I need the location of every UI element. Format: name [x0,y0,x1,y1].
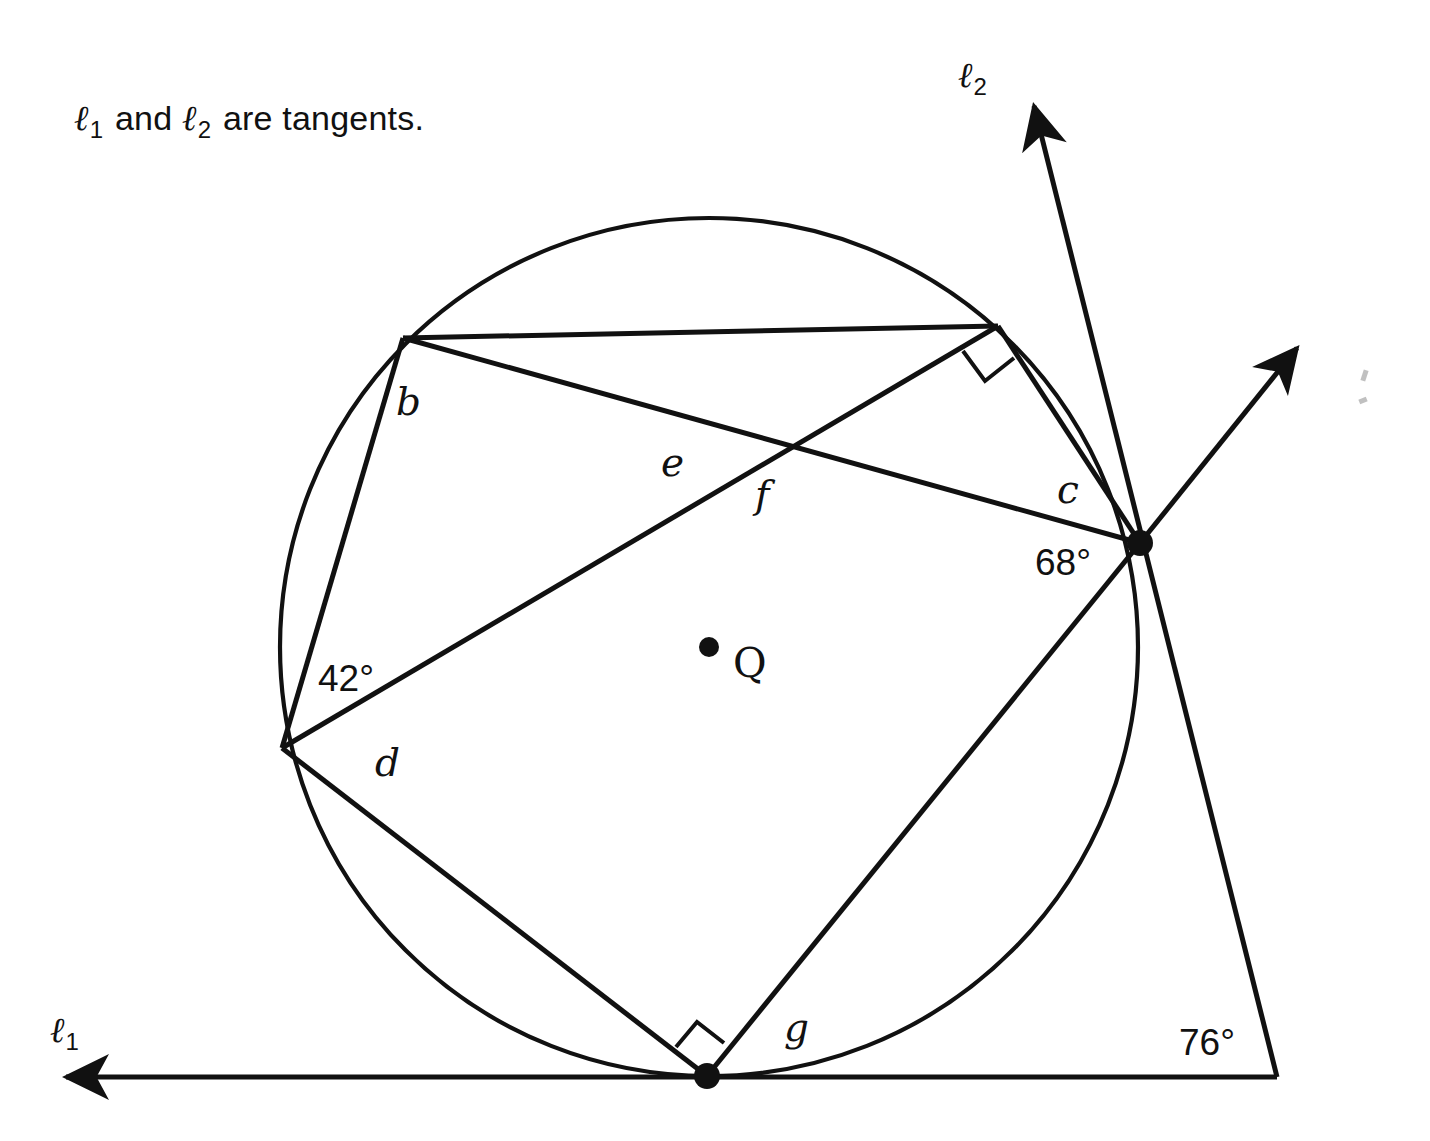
chord-e-c [707,543,1140,1076]
tangent-2-symbol: ℓ [958,55,973,95]
point-dot-q [699,637,719,657]
angle-label-42: 42° [318,660,374,697]
right-angle-mark-e [676,1022,724,1047]
angle-label-f: f [755,475,769,514]
angle-label-c: c [1057,470,1079,509]
tangent-1-subscript: 1 [65,1028,81,1055]
angle-label-76: 76° [1179,1024,1235,1061]
tangent-line-1-label: ℓ1 [50,1013,81,1054]
tangent-2-subscript: 2 [973,73,989,100]
chord-d-e [282,748,707,1076]
circle-center-label-q: Q [733,643,767,684]
secant-ray-up-right [1140,348,1297,543]
right-angle-mark-b [963,351,1014,381]
chord-a-b [403,326,998,338]
geometry-figure [0,0,1430,1141]
diagram-page: ℓ1 and ℓ2 are tangents. [0,0,1430,1141]
tangent-line-2-label: ℓ2 [958,58,989,99]
angle-label-68: 68° [1035,544,1091,581]
angle-label-d: d [375,743,400,782]
point-dot-e [694,1063,720,1089]
angle-label-b: b [396,382,421,421]
tangent-line-2 [1034,106,1277,1077]
angle-label-g: g [784,1008,809,1047]
chord-a-c [403,338,1140,543]
angle-label-e: e [661,443,684,482]
tangent-1-symbol: ℓ [50,1010,65,1050]
point-dot-c [1127,530,1153,556]
